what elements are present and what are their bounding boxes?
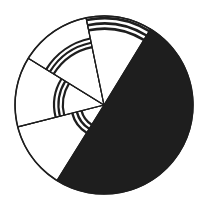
- pie-chart: [0, 0, 203, 207]
